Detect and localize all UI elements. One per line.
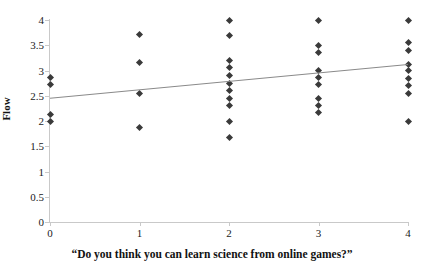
y-tick-label: 3.5 [10, 40, 44, 51]
x-tick-mark [50, 222, 51, 226]
y-tick-label: 0 [10, 217, 44, 228]
x-tick-label: 4 [393, 228, 423, 239]
data-point [315, 81, 322, 88]
y-tick-label: 1 [10, 166, 44, 177]
y-tick-label: 0.5 [10, 191, 44, 202]
data-point [404, 47, 411, 54]
y-tick-label: 2 [10, 116, 44, 127]
data-point [315, 16, 322, 23]
data-point [315, 49, 322, 56]
data-point [136, 31, 143, 38]
x-tick-mark [229, 222, 230, 226]
data-point [225, 134, 232, 141]
data-point [404, 90, 411, 97]
data-point [225, 87, 232, 94]
data-point [225, 64, 232, 71]
y-tick-mark [45, 172, 49, 173]
data-point [225, 117, 232, 124]
y-tick-mark [45, 96, 49, 97]
data-point [136, 90, 143, 97]
data-point [225, 32, 232, 39]
data-point [225, 72, 232, 79]
x-tick-label: 0 [35, 228, 65, 239]
x-tick-mark [408, 222, 409, 226]
y-axis-title: Flow [0, 97, 12, 120]
data-point [315, 109, 322, 116]
scatter-plot-figure: 00.511.522.533.54 01234 Flow “Do you thi… [0, 0, 424, 272]
x-tick-label: 2 [214, 228, 244, 239]
data-point [404, 117, 411, 124]
x-tick-mark [319, 222, 320, 226]
y-tick-mark [45, 222, 49, 223]
data-point [315, 95, 322, 102]
y-tick-mark [45, 146, 49, 147]
y-tick-mark [45, 71, 49, 72]
y-tick-label: 2.5 [10, 90, 44, 101]
data-point [46, 81, 53, 88]
data-point [315, 74, 322, 81]
data-point [46, 117, 53, 124]
data-point [225, 102, 232, 109]
x-axis-title: “Do you think you can learn science from… [0, 248, 424, 260]
data-point [136, 59, 143, 66]
y-tick-mark [45, 45, 49, 46]
data-point [404, 39, 411, 46]
data-point [404, 82, 411, 89]
y-tick-label: 3 [10, 65, 44, 76]
x-tick-label: 3 [304, 228, 334, 239]
data-point [225, 16, 232, 23]
data-point [404, 16, 411, 23]
y-tick-mark [45, 20, 49, 21]
data-point [315, 42, 322, 49]
x-tick-label: 1 [125, 228, 155, 239]
data-point [404, 67, 411, 74]
data-point [136, 124, 143, 131]
x-tick-mark [140, 222, 141, 226]
y-tick-label: 1.5 [10, 141, 44, 152]
y-tick-label: 4 [10, 15, 44, 26]
y-tick-mark [45, 197, 49, 198]
